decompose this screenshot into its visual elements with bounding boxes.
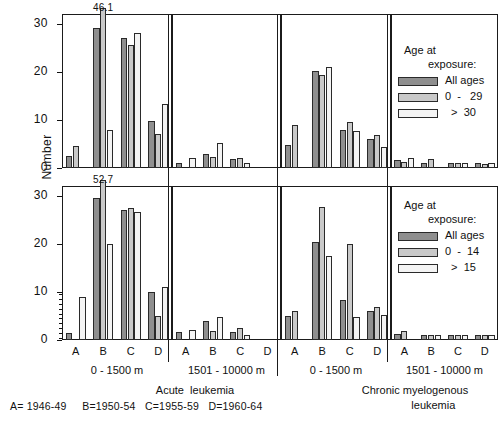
bar-group-B: [93, 14, 113, 168]
bar-B--15: [107, 244, 113, 340]
y-axis-top-tick-label: 10: [22, 112, 48, 126]
bar-B-0-29: [319, 75, 325, 168]
bar-group-C: [121, 14, 141, 168]
bar-C--15: [353, 317, 359, 340]
bar-B-all-ages: [203, 154, 209, 168]
legend-item-label: > 15: [445, 261, 476, 275]
bar-C--30: [244, 163, 250, 168]
bar-D-0-29: [155, 134, 161, 168]
legend-item-1[interactable]: All ages: [398, 230, 498, 243]
bar-B-0-29: [100, 8, 106, 168]
legend-swatch-icon: [398, 264, 438, 273]
bar-C-0-29: [455, 163, 461, 168]
bar-C--30: [134, 33, 140, 168]
bar-D-all-ages: [367, 311, 373, 340]
bar-B-all-ages: [93, 198, 99, 340]
legend-item-1[interactable]: All ages: [398, 75, 498, 88]
y-axis-top-tick-label: 30: [22, 16, 48, 30]
bar-group-B: [312, 14, 332, 168]
bar-B-0-29: [428, 159, 434, 168]
legend-item-3[interactable]: > 15: [398, 262, 498, 275]
bar-group-D: [148, 14, 168, 168]
bar-A-all-ages: [285, 316, 291, 340]
bar-B--30: [217, 143, 223, 168]
bar-group-A: [66, 14, 86, 168]
bar-B-all-ages: [421, 163, 427, 168]
bar-C--15: [462, 335, 468, 340]
bar-D-0-29: [482, 164, 488, 168]
bar-C-0-29: [237, 158, 243, 168]
bar-C-all-ages: [340, 130, 346, 169]
legend-item-2[interactable]: 0 - 29: [398, 91, 498, 104]
panel-2-bars: [172, 14, 281, 168]
panel-6-bars: [172, 186, 281, 340]
legend-title-line2: exposure:: [428, 213, 498, 227]
bar-B-0-14: [319, 207, 325, 340]
y-axis-bottom-tick-label: 0: [22, 332, 48, 346]
annotation-clipped-value: 52.7: [86, 174, 122, 185]
bar-A-all-ages: [66, 156, 72, 168]
bar-A-all-ages: [285, 145, 291, 168]
legend-item-3[interactable]: > 30: [398, 107, 498, 120]
bar-group-D: [367, 14, 387, 168]
bar-C-all-ages: [448, 335, 454, 340]
panel-7-bars: [281, 186, 391, 340]
bar-D-all-ages: [148, 292, 154, 340]
bar-group-A: [66, 186, 86, 340]
y-axis-bottom-tick-label: 20: [22, 236, 48, 250]
legend-1: Age atexposure:All ages0 - 29 > 30: [398, 44, 498, 120]
bar-D-0-29: [374, 135, 380, 168]
bar-C--15: [244, 335, 250, 340]
legend-title-line1: Age at: [404, 199, 498, 213]
y-axis-bottom-tick-label: 10: [22, 284, 48, 298]
bar-C--30: [462, 163, 468, 168]
bar-D--30: [488, 163, 494, 168]
bar-A-all-ages: [66, 333, 72, 340]
bar-group-D: [257, 186, 277, 340]
bar-A--30: [408, 158, 414, 168]
bar-group-C: [340, 186, 360, 340]
bar-C-all-ages: [121, 210, 127, 340]
bar-D-all-ages: [475, 335, 481, 340]
bar-B--15: [326, 256, 332, 340]
bar-A-all-ages: [394, 160, 400, 168]
x-tick-B: B: [90, 345, 118, 357]
panel-3-bars: [281, 14, 391, 168]
bar-B-all-ages: [421, 335, 427, 340]
legend-swatch-icon: [398, 77, 438, 86]
bar-D--15: [488, 335, 494, 340]
bar-group-C: [340, 14, 360, 168]
legend-item-2[interactable]: 0 - 14: [398, 246, 498, 259]
bar-D-0-14: [155, 316, 161, 340]
bar-C-all-ages: [340, 300, 346, 340]
panel-5-bars: [62, 186, 172, 340]
bar-C-0-29: [128, 45, 134, 168]
x-group-label-4: 1501 - 10000 m: [383, 364, 501, 376]
distance-separator-2: [387, 14, 388, 362]
bar-group-B: [93, 186, 113, 340]
bar-C-0-14: [455, 335, 461, 340]
legend-2: Age atexposure:All ages0 - 14 > 15: [398, 199, 498, 275]
bar-C-all-ages: [230, 159, 236, 168]
x-tick-D: D: [254, 345, 281, 357]
x-tick-D: D: [471, 345, 498, 357]
bar-D-all-ages: [148, 121, 154, 168]
bar-group-B: [203, 186, 223, 340]
bar-B--15: [217, 317, 223, 340]
bar-C-0-14: [128, 208, 134, 340]
bar-C-all-ages: [448, 163, 454, 168]
bar-C--15: [134, 212, 140, 340]
legend-item-label: 0 - 29: [445, 90, 482, 104]
bar-group-A: [285, 14, 305, 168]
bar-B--30: [107, 130, 113, 169]
bar-group-D: [257, 14, 277, 168]
bar-A-0-29: [73, 146, 79, 168]
legend-item-label: > 30: [445, 106, 476, 120]
x-tick-A: A: [62, 345, 90, 357]
disease-separator: [277, 14, 278, 376]
bar-group-B: [203, 14, 223, 168]
bar-A-all-ages: [176, 163, 182, 168]
bar-A--15: [79, 297, 85, 340]
legend-swatch-icon: [398, 232, 438, 241]
bar-A-all-ages: [176, 332, 182, 340]
